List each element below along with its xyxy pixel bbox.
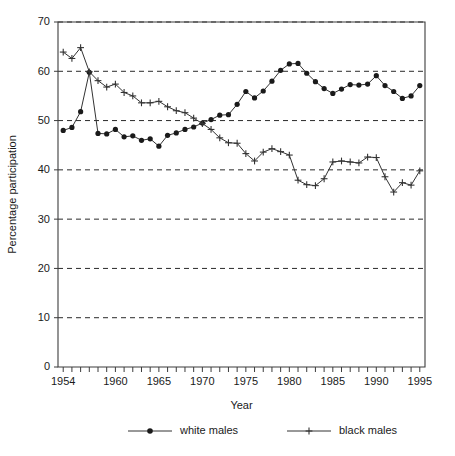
legend-marker-dot-icon (147, 428, 153, 434)
data-point-0-1984 (322, 86, 327, 91)
data-point-0-1988 (356, 82, 361, 87)
ytick-label-20: 20 (38, 262, 50, 274)
data-point-1-1987 (347, 159, 354, 166)
data-point-0-1963 (139, 138, 144, 143)
data-point-1-1964 (147, 99, 154, 106)
legend-item-white-males: white males (128, 424, 239, 436)
data-point-0-1976 (252, 95, 257, 100)
legend-item-black-males: black males (287, 424, 398, 436)
xtick-label-1990: 1990 (364, 375, 388, 387)
data-point-1-1989 (364, 154, 371, 161)
ytick-label-30: 30 (38, 213, 50, 225)
data-point-0-1980 (287, 61, 292, 66)
data-point-1-1970 (199, 120, 206, 127)
data-point-0-1973 (226, 112, 231, 117)
data-point-0-1959 (104, 131, 109, 136)
data-point-1-1994 (408, 182, 415, 189)
xtick-label-1965: 1965 (147, 375, 171, 387)
data-point-1-1990 (373, 154, 380, 161)
data-point-0-1972 (217, 113, 222, 118)
plot-frame (58, 22, 425, 367)
data-point-0-1969 (191, 124, 196, 129)
legend-marker-plus-icon (306, 428, 313, 435)
data-point-0-1960 (113, 127, 118, 132)
data-point-0-1977 (261, 88, 266, 93)
data-point-0-1967 (174, 130, 179, 135)
ytick-label-70: 70 (38, 15, 50, 27)
ytick-label-0: 0 (44, 360, 50, 372)
data-point-1-1995 (416, 167, 423, 174)
data-point-1-1968 (182, 109, 189, 116)
xtick-label-1970: 1970 (190, 375, 214, 387)
xtick-label-1995: 1995 (408, 375, 432, 387)
data-point-0-1956 (78, 109, 83, 114)
data-point-0-1981 (295, 61, 300, 66)
data-point-0-1991 (382, 83, 387, 88)
data-point-1-1979 (277, 148, 284, 155)
data-point-1-1965 (155, 98, 162, 105)
data-point-0-1955 (69, 125, 74, 130)
series-line-0 (63, 63, 420, 146)
data-point-0-1994 (408, 93, 413, 98)
ytick-label-10: 10 (38, 311, 50, 323)
data-point-0-1983 (313, 79, 318, 84)
data-point-0-1982 (304, 71, 309, 76)
xtick-label-1980: 1980 (277, 375, 301, 387)
data-point-0-1993 (400, 96, 405, 101)
legend-label: white males (179, 424, 239, 436)
data-point-0-1958 (95, 131, 100, 136)
data-point-1-1959 (103, 84, 110, 91)
data-point-0-1962 (130, 133, 135, 138)
data-point-1-1967 (173, 107, 180, 114)
data-point-0-1966 (165, 133, 170, 138)
data-point-0-1986 (339, 86, 344, 91)
data-point-0-1971 (208, 117, 213, 122)
data-point-0-1961 (121, 134, 126, 139)
series-line-1 (63, 48, 420, 192)
series-white-males (61, 61, 423, 149)
xtick-label-1960: 1960 (103, 375, 127, 387)
data-point-0-1990 (374, 73, 379, 78)
xtick-label-1954: 1954 (51, 375, 75, 387)
data-point-0-1987 (348, 82, 353, 87)
data-point-0-1995 (417, 83, 422, 88)
chart-figure: 0102030405060701954196019651970197519801… (0, 0, 455, 456)
data-point-0-1985 (330, 91, 335, 96)
data-point-0-1975 (243, 89, 248, 94)
data-point-0-1989 (365, 82, 370, 87)
data-point-1-1985 (329, 159, 336, 166)
series-black-males (60, 44, 423, 195)
data-point-0-1954 (61, 128, 66, 133)
ytick-label-40: 40 (38, 163, 50, 175)
data-point-0-1968 (182, 127, 187, 132)
data-point-0-1965 (156, 144, 161, 149)
xtick-label-1975: 1975 (234, 375, 258, 387)
ytick-label-60: 60 (38, 65, 50, 77)
data-point-0-1964 (148, 136, 153, 141)
ytick-label-50: 50 (38, 114, 50, 126)
data-point-1-1978 (269, 145, 276, 152)
x-axis-title: Year (230, 399, 253, 411)
data-point-1-1988 (356, 160, 363, 167)
legend-label: black males (339, 424, 398, 436)
xtick-label-1985: 1985 (321, 375, 345, 387)
data-point-1-1973 (225, 139, 232, 146)
data-point-1-1954 (60, 49, 67, 56)
line-chart: 0102030405060701954196019651970197519801… (0, 0, 455, 456)
data-point-1-1991 (382, 173, 389, 180)
data-point-1-1981 (295, 177, 302, 184)
data-point-1-1966 (164, 103, 171, 110)
y-axis-title: Percentage participation (6, 135, 18, 254)
data-point-0-1978 (269, 79, 274, 84)
data-point-1-1982 (303, 181, 310, 188)
data-point-1-1986 (338, 158, 345, 165)
data-point-1-1980 (286, 152, 293, 159)
data-point-0-1974 (235, 102, 240, 107)
data-point-0-1992 (391, 89, 396, 94)
data-point-0-1979 (278, 68, 283, 73)
